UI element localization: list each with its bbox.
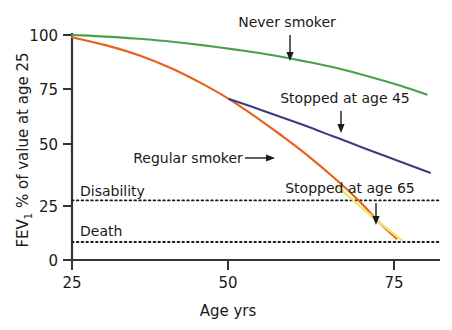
x-tick-label-75: 75 bbox=[384, 274, 403, 292]
threshold-lines bbox=[72, 200, 440, 242]
y-axis-title-main: FEV bbox=[14, 218, 32, 247]
y-tick-label-0: 0 bbox=[48, 252, 58, 270]
curve-never-smoker bbox=[72, 35, 427, 95]
svg-text:FEV1 % of value at age 25: FEV1 % of value at age 25 bbox=[14, 52, 34, 247]
annotation-never-smoker: Never smoker bbox=[238, 14, 336, 61]
y-axis-ticks bbox=[63, 35, 72, 260]
y-axis-title: FEV1 % of value at age 25 bbox=[14, 52, 34, 247]
y-tick-label-50: 50 bbox=[39, 136, 58, 154]
chart-container: 100 75 50 25 0 25 50 75 Age yrs FEV1 % o… bbox=[0, 0, 452, 330]
annotation-stopped-age-65: Stopped at age 65 bbox=[285, 180, 415, 225]
lung-function-decline-chart: 100 75 50 25 0 25 50 75 Age yrs FEV1 % o… bbox=[0, 0, 452, 330]
death-threshold-label: Death bbox=[80, 223, 122, 239]
x-axis-ticks bbox=[72, 260, 394, 270]
annotation-stopped-age-45-label: Stopped at age 45 bbox=[280, 90, 410, 106]
annotation-stopped-age-45-arrowhead-icon bbox=[337, 124, 344, 133]
annotation-never-smoker-label: Never smoker bbox=[238, 14, 336, 30]
curve-stopped-age-45 bbox=[229, 99, 430, 173]
y-tick-label-75: 75 bbox=[39, 81, 58, 99]
annotation-stopped-age-65-label: Stopped at age 65 bbox=[285, 180, 415, 196]
y-axis-title-rest: % of value at age 25 bbox=[14, 52, 32, 212]
x-axis-title: Age yrs bbox=[200, 302, 257, 320]
disability-threshold-label: Disability bbox=[80, 183, 145, 199]
annotation-regular-smoker: Regular smoker bbox=[133, 150, 275, 166]
x-axis-tick-labels: 25 50 75 bbox=[62, 274, 403, 292]
annotation-regular-smoker-label: Regular smoker bbox=[133, 150, 243, 166]
annotation-stopped-age-45: Stopped at age 45 bbox=[280, 90, 410, 133]
annotation-regular-smoker-arrowhead-icon bbox=[266, 154, 275, 161]
curve-regular-smoker bbox=[72, 37, 397, 238]
x-tick-label-50: 50 bbox=[218, 274, 237, 292]
x-tick-label-25: 25 bbox=[62, 274, 81, 292]
y-axis-tick-labels: 100 75 50 25 0 bbox=[29, 27, 58, 270]
y-tick-label-25: 25 bbox=[39, 198, 58, 216]
y-tick-label-100: 100 bbox=[29, 27, 58, 45]
